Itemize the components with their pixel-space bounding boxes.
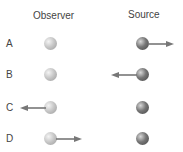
observer-header: Observer bbox=[33, 10, 74, 21]
arrow-right-icon bbox=[56, 135, 82, 143]
arrow-right-icon bbox=[148, 40, 174, 48]
row-label-b: B bbox=[6, 69, 13, 80]
arrow-left-icon bbox=[111, 71, 137, 79]
source-ball-d bbox=[136, 132, 149, 145]
row-label-d: D bbox=[6, 133, 13, 144]
row-label-a: A bbox=[6, 38, 13, 49]
arrow-left-icon bbox=[20, 104, 46, 112]
observer-ball-a bbox=[44, 37, 57, 50]
source-ball-b bbox=[136, 68, 149, 81]
observer-ball-b bbox=[44, 68, 57, 81]
source-header: Source bbox=[128, 9, 160, 20]
source-ball-c bbox=[136, 101, 149, 114]
row-label-c: C bbox=[6, 102, 13, 113]
